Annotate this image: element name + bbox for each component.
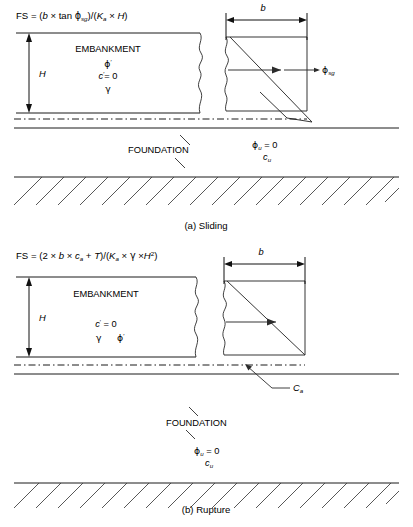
wedge-break-edge-b (223, 281, 227, 355)
caption-sliding: (a) Sliding (184, 220, 227, 231)
label-c-prime-rupture: c′ = 0 (95, 318, 117, 329)
panel-a-sliding: FS = (b × tan ϕsg)/(Ka × H) ϕsg (14, 3, 399, 231)
formula-sliding: FS = (b × tan ϕsg)/(Ka × H) (16, 10, 128, 22)
label-phi-u-rupture: ϕu = 0 (194, 445, 219, 457)
label-foundation-sliding: FOUNDATION (128, 145, 189, 155)
label-h-rupture: H (39, 313, 46, 323)
foundation-slash-upper-a (180, 135, 190, 145)
label-gamma-sliding: γ (105, 83, 111, 94)
label-c-prime-sliding: c′= 0 (98, 70, 117, 81)
dimension-b-sliding: b (226, 3, 307, 40)
label-b-rupture: b (258, 247, 263, 257)
failure-plane-tail2 (260, 92, 287, 118)
adhesion-leader (245, 364, 290, 388)
foundation-slash-lower-b (186, 430, 195, 439)
dimension-h-sliding: H (26, 33, 46, 113)
thrust-force-arrow (228, 67, 281, 74)
embankment-break-edge-left (198, 33, 202, 113)
stability-figure: FS = (b × tan ϕsg)/(Ka × H) ϕsg (0, 0, 413, 527)
label-embankment-sliding: EMBANKMENT (75, 44, 141, 54)
foundation-slash-lower-a (175, 158, 185, 168)
caption-rupture: (b) Rupture (182, 504, 231, 515)
figure-root: FS = (b × tan ϕsg)/(Ka × H) ϕsg (0, 0, 413, 527)
label-c-a-rupture: Ca (293, 383, 304, 394)
panel-b-rupture: FS = (2 × b × ca + T)/(Ka × γ ×H2) b (14, 247, 399, 515)
wedge-break-edge (225, 37, 229, 111)
formula-rupture: FS = (2 × b × ca + T)/(Ka × γ ×H2) (16, 250, 157, 262)
label-b-sliding: b (260, 3, 265, 13)
label-phi-prime-sliding: ϕ′ (104, 58, 112, 69)
failure-plane-diagonal-b (227, 281, 305, 355)
interface-friction-arrow (307, 68, 320, 72)
label-phi-u-sliding: ϕu = 0 (252, 139, 277, 151)
label-gamma-rupture: γ (96, 332, 102, 343)
embankment-break-edge-left-b (194, 277, 198, 357)
label-foundation-rupture: FOUNDATION (166, 418, 227, 428)
label-cu-sliding: cu (263, 152, 272, 163)
label-embankment-rupture: EMBANKMENT (73, 289, 139, 299)
label-cu-rupture: cu (205, 458, 214, 469)
thrust-force-arrow-b (226, 319, 276, 326)
dimension-b-rupture: b (224, 247, 305, 284)
foundation-slash-upper-b (189, 407, 198, 416)
label-phi-sg: ϕsg (322, 64, 335, 76)
failure-plane-diagonal (230, 37, 312, 122)
label-phi-prime-rupture: ϕ′ (117, 332, 125, 343)
dimension-h-rupture: H (26, 277, 46, 357)
label-h-sliding: H (39, 69, 46, 79)
bedrock-hatching-a (14, 177, 399, 205)
